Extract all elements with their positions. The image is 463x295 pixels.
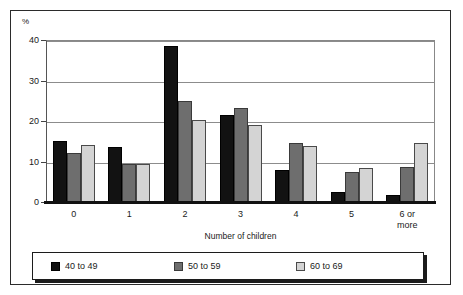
bar-group <box>164 41 206 202</box>
bar-group <box>108 41 150 202</box>
bar <box>81 145 95 203</box>
bar <box>67 153 81 202</box>
bar <box>275 170 289 202</box>
bar <box>164 46 178 202</box>
bar <box>289 143 303 202</box>
bar-group <box>275 41 317 202</box>
x-axis-title: Number of children <box>46 231 435 241</box>
legend-label: 40 to 49 <box>65 261 98 271</box>
legend-swatch-icon <box>174 262 183 271</box>
bar <box>178 101 192 202</box>
legend-item[interactable]: 40 to 49 <box>51 261 98 271</box>
x-tick-label: 5 <box>324 209 380 220</box>
y-tick-label-0: 0 <box>17 198 39 207</box>
y-axis-unit-label: % <box>22 17 29 26</box>
legend-item[interactable]: 50 to 59 <box>174 261 221 271</box>
bar-group <box>331 41 373 202</box>
y-tick-label-10: 10 <box>17 158 39 167</box>
legend-swatch-icon <box>51 262 60 271</box>
bar <box>303 146 317 202</box>
legend-label: 50 to 59 <box>188 261 221 271</box>
legend-label: 60 to 69 <box>310 261 343 271</box>
bar <box>220 115 234 202</box>
chart-legend: 40 to 4950 to 5960 to 69 <box>32 252 424 280</box>
x-tick-label: 2 <box>157 209 213 220</box>
bar-group <box>53 41 95 202</box>
bar-group <box>220 41 262 202</box>
y-tick-label-30: 30 <box>17 77 39 86</box>
bar <box>122 164 136 202</box>
y-tick-label-20: 20 <box>17 117 39 126</box>
bar <box>136 164 150 202</box>
bar <box>400 167 414 202</box>
bar <box>414 143 428 202</box>
x-tick-label: 6 ormore <box>379 209 435 231</box>
bar <box>53 141 67 202</box>
bar <box>359 168 373 202</box>
bar-group <box>386 41 428 202</box>
bar <box>192 120 206 202</box>
bar <box>234 108 248 202</box>
chart-figure: % 010203040 0123456 ormore Number of chi… <box>0 0 463 295</box>
x-tick-label: 3 <box>213 209 269 220</box>
bar <box>248 125 262 202</box>
legend-item[interactable]: 60 to 69 <box>296 261 343 271</box>
bar <box>108 147 122 202</box>
x-tick-label: 1 <box>102 209 158 220</box>
x-axis-baseline <box>44 201 436 204</box>
y-tick-label-40: 40 <box>17 36 39 45</box>
legend-swatch-icon <box>296 262 305 271</box>
x-tick-label: 4 <box>268 209 324 220</box>
plot-area <box>46 40 435 202</box>
bar <box>345 172 359 202</box>
x-tick-label: 0 <box>46 209 102 220</box>
